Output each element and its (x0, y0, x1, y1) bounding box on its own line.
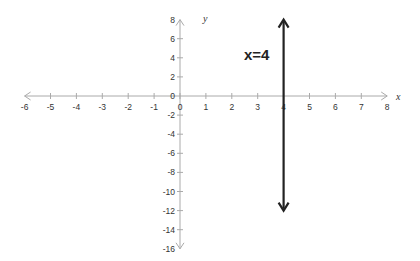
x-tick-label: -5 (47, 102, 55, 112)
axes (25, 20, 388, 249)
line-label: x=4 (244, 46, 270, 63)
y-tick-label: -2 (167, 110, 175, 120)
x-tick-label: 7 (359, 102, 364, 112)
x-axis-name: x (395, 91, 401, 102)
y-tick-label: -4 (167, 129, 175, 139)
x-tick-label: 0 (178, 102, 183, 112)
y-tick-label: 8 (170, 15, 175, 25)
y-tick-label: -6 (167, 148, 175, 158)
x-tick-label: 3 (255, 102, 260, 112)
y-tick-label: -12 (163, 206, 176, 216)
x-tick-label: 6 (333, 102, 338, 112)
coordinate-plane: -6-5-4-3-2-1012345678 86420-2-4-6-8-10-1… (0, 0, 420, 261)
x-tick-label: -6 (21, 102, 29, 112)
x-tick-label: 8 (385, 102, 390, 112)
y-tick-label: 2 (170, 72, 175, 82)
vertical-line-x-equals-4 (279, 20, 289, 211)
y-tick-label: 4 (170, 53, 175, 63)
y-tick-label: -10 (163, 187, 176, 197)
x-tick-label: 1 (204, 102, 209, 112)
x-tick-label: 5 (307, 102, 312, 112)
x-tick-label: 2 (229, 102, 234, 112)
y-tick-label: 0 (170, 91, 175, 101)
y-tick-label: -16 (163, 244, 176, 254)
x-tick-label: -4 (73, 102, 81, 112)
y-tick-label: -14 (163, 225, 176, 235)
x-tick-label: -3 (99, 102, 107, 112)
x-tick-label: -1 (150, 102, 158, 112)
x-tick-label: -2 (124, 102, 132, 112)
y-axis-name: y (202, 13, 208, 24)
y-tick-label: -8 (167, 167, 175, 177)
y-tick-label: 6 (170, 34, 175, 44)
